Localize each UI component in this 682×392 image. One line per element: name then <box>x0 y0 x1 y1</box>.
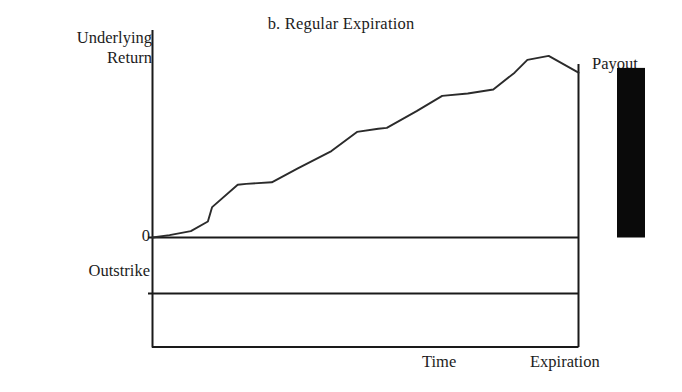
underlying-return-line <box>153 56 579 238</box>
payout-bar <box>617 68 645 238</box>
plot-area <box>0 0 682 392</box>
chart-figure: b. Regular Expiration Underlying Return … <box>0 0 682 392</box>
